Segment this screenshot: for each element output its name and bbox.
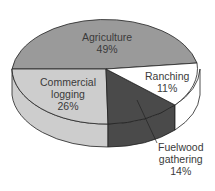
label-agriculture-name: Agriculture <box>82 31 132 43</box>
label-logging-pct: 26% <box>40 100 96 112</box>
label-logging-name2: logging <box>40 88 96 100</box>
label-fuelwood-name2: gathering <box>158 153 204 165</box>
label-agriculture-pct: 49% <box>82 43 132 55</box>
label-logging: Commercial logging 26% <box>40 76 96 112</box>
label-fuelwood-pct: 14% <box>158 165 204 177</box>
label-ranching: Ranching 11% <box>145 70 189 94</box>
label-ranching-name: Ranching <box>145 70 189 82</box>
label-fuelwood: Fuelwood gathering 14% <box>158 141 204 177</box>
label-agriculture: Agriculture 49% <box>82 31 132 55</box>
label-logging-name1: Commercial <box>40 76 96 88</box>
label-ranching-pct: 11% <box>145 82 189 94</box>
label-fuelwood-name1: Fuelwood <box>158 141 204 153</box>
